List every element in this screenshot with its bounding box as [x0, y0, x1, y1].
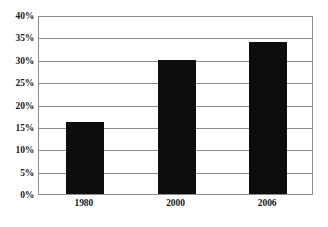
x-tick-label: 1980: [75, 199, 94, 209]
y-tick-label: 10%: [0, 147, 34, 157]
x-tick-label: 2000: [166, 199, 185, 209]
plot-area: [38, 16, 313, 195]
bar: [158, 60, 196, 194]
x-tick-label: 2006: [258, 199, 277, 209]
y-tick-label: 20%: [0, 102, 34, 112]
y-axis: 40% 35% 30% 25% 20% 15% 10% 5% 0%: [0, 16, 34, 195]
y-tick-label: 30%: [0, 57, 34, 67]
y-tick-label: 25%: [0, 79, 34, 89]
bars-layer: [39, 17, 312, 194]
y-tick-label: 15%: [0, 124, 34, 134]
bar: [249, 42, 287, 194]
bar: [66, 122, 104, 194]
x-axis: 198020002006: [38, 199, 313, 215]
y-tick-label: 40%: [0, 12, 34, 22]
bar-chart: 40% 35% 30% 25% 20% 15% 10% 5% 0% 198020…: [0, 0, 328, 227]
y-tick-label: 5%: [0, 169, 34, 179]
y-tick-label: 35%: [0, 35, 34, 45]
y-tick-label: 0%: [0, 191, 34, 201]
